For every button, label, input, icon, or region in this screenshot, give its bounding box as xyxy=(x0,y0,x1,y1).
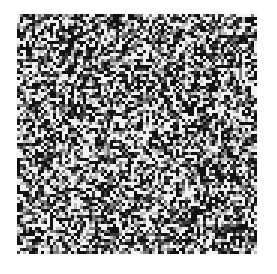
noise-pattern-image xyxy=(17,14,257,254)
